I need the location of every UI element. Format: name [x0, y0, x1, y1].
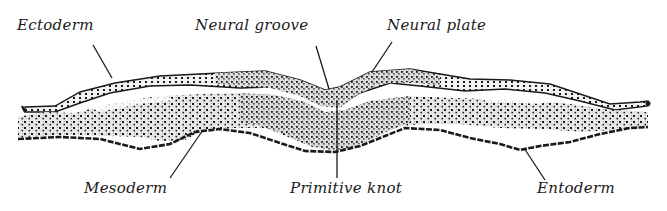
- neural-plate-leader: [372, 42, 392, 72]
- entoderm-leader: [524, 148, 545, 180]
- label-neural-groove: Neural groove: [195, 18, 308, 33]
- neural-groove-leader: [316, 46, 329, 89]
- label-mesoderm: Mesoderm: [84, 181, 167, 196]
- ectoderm-leader: [93, 45, 112, 78]
- label-ectoderm: Ectoderm: [17, 18, 94, 33]
- label-entoderm: Entoderm: [537, 181, 615, 196]
- label-primitive-knot: Primitive knot: [290, 181, 402, 196]
- label-neural-plate: Neural plate: [387, 18, 486, 33]
- embryo-cross-section-figure: Ectoderm Neural groove Neural plate Meso…: [0, 0, 667, 211]
